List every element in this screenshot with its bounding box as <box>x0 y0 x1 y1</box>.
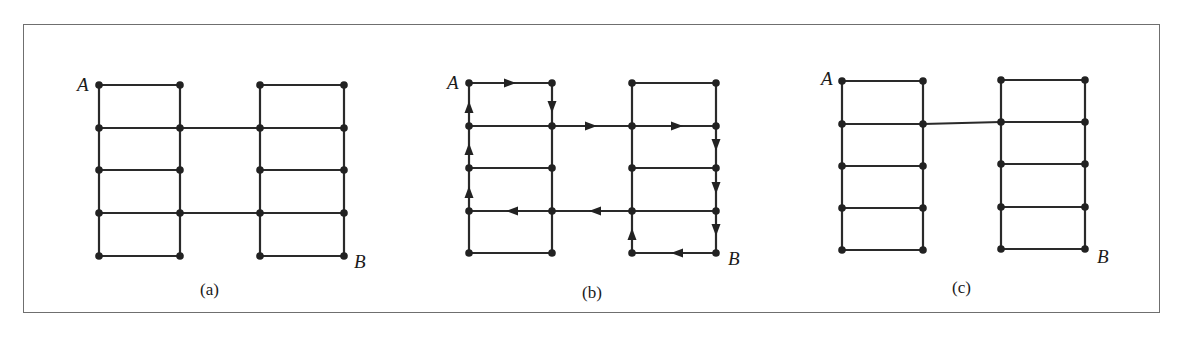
vertex-node <box>1081 76 1089 84</box>
vertex-node <box>256 252 264 260</box>
vertex-node <box>997 118 1005 126</box>
vertex-node <box>340 209 348 217</box>
arrow-left-icon <box>671 249 683 258</box>
vertex-node <box>1081 245 1089 253</box>
panel-a-start-label: A <box>75 74 89 95</box>
vertex-node <box>1081 160 1089 168</box>
vertex-node <box>712 164 720 172</box>
panel-b-end-label: B <box>728 248 740 269</box>
vertex-node <box>176 124 184 132</box>
arrow-up-icon <box>465 101 474 113</box>
vertex-node <box>548 122 556 130</box>
vertex-node <box>548 79 556 87</box>
vertex-node <box>465 164 473 172</box>
vertex-node <box>95 209 103 217</box>
vertex-node <box>95 81 103 89</box>
vertex-node <box>340 124 348 132</box>
vertex-node <box>838 162 846 170</box>
arrow-right-icon <box>504 79 516 88</box>
vertex-node <box>465 79 473 87</box>
vertex-node <box>1081 203 1089 211</box>
vertex-node <box>919 162 927 170</box>
vertex-node <box>176 81 184 89</box>
vertex-node <box>712 79 720 87</box>
vertex-node <box>997 160 1005 168</box>
vertex-node <box>628 79 636 87</box>
vertex-node <box>919 77 927 85</box>
vertex-node <box>465 207 473 215</box>
vertex-node <box>919 120 927 128</box>
arrow-down-icon <box>712 139 721 151</box>
vertex-node <box>712 122 720 130</box>
graph-figure: A B (a) A B (b) A B (c) <box>0 0 1190 337</box>
vertex-node <box>628 207 636 215</box>
panel-c-end-label: B <box>1097 246 1109 267</box>
arrow-down-icon <box>548 101 557 113</box>
vertex-node <box>548 164 556 172</box>
panel-a-graph <box>95 81 348 260</box>
vertex-node <box>838 77 846 85</box>
vertex-node <box>1081 118 1089 126</box>
vertex-node <box>95 252 103 260</box>
panel-a-caption: (a) <box>200 280 219 299</box>
vertex-node <box>628 249 636 257</box>
vertex-node <box>340 166 348 174</box>
arrow-right-icon <box>671 122 683 131</box>
vertex-node <box>256 166 264 174</box>
arrow-up-icon <box>465 186 474 198</box>
arrow-up-icon <box>465 143 474 155</box>
vertex-node <box>465 122 473 130</box>
vertex-node <box>997 203 1005 211</box>
vertex-node <box>548 249 556 257</box>
vertex-node <box>997 245 1005 253</box>
vertex-node <box>256 124 264 132</box>
arrow-left-icon <box>506 207 518 216</box>
vertex-node <box>95 166 103 174</box>
arrow-right-icon <box>585 122 597 131</box>
vertex-node <box>838 120 846 128</box>
vertex-node <box>340 81 348 89</box>
panel-a-end-label: B <box>354 251 366 272</box>
panel-b-start-label: A <box>445 72 459 93</box>
vertex-node <box>919 204 927 212</box>
vertex-node <box>256 81 264 89</box>
vertex-node <box>176 209 184 217</box>
vertex-node <box>712 249 720 257</box>
vertex-node <box>838 204 846 212</box>
vertex-node <box>838 246 846 254</box>
panel-c-caption: (c) <box>952 278 971 297</box>
vertex-node <box>340 252 348 260</box>
vertex-node <box>95 124 103 132</box>
arrow-up-icon <box>628 228 637 240</box>
vertex-node <box>712 207 720 215</box>
panel-b-caption: (b) <box>582 283 602 302</box>
arrow-down-icon <box>712 224 721 236</box>
panel-b-graph <box>465 79 721 258</box>
bridge-edge <box>923 122 1001 124</box>
vertex-node <box>997 76 1005 84</box>
vertex-node <box>176 252 184 260</box>
arrow-down-icon <box>712 182 721 194</box>
vertex-node <box>919 246 927 254</box>
vertex-node <box>256 209 264 217</box>
arrow-left-icon <box>589 207 601 216</box>
vertex-node <box>465 249 473 257</box>
vertex-node <box>628 164 636 172</box>
vertex-node <box>548 207 556 215</box>
vertex-node <box>628 122 636 130</box>
panel-c-graph <box>838 76 1089 254</box>
panel-c-start-label: A <box>819 68 833 89</box>
vertex-node <box>176 166 184 174</box>
